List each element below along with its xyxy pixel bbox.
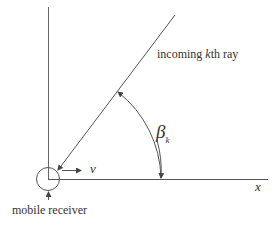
- x-axis-label: x: [255, 180, 261, 193]
- diagram-canvas: [0, 0, 280, 227]
- angle-beta-label: βk: [156, 122, 169, 145]
- angle-arc: [118, 92, 161, 178]
- beta-subscript: k: [165, 135, 169, 145]
- ray-label-prefix: incoming: [157, 47, 205, 61]
- incoming-ray-arrow: [58, 15, 175, 170]
- receiver-label: mobile receiver: [12, 204, 87, 216]
- incoming-ray-label: incoming kth ray: [157, 48, 238, 60]
- velocity-label: v: [90, 162, 96, 175]
- ray-label-suffix: th ray: [211, 47, 239, 61]
